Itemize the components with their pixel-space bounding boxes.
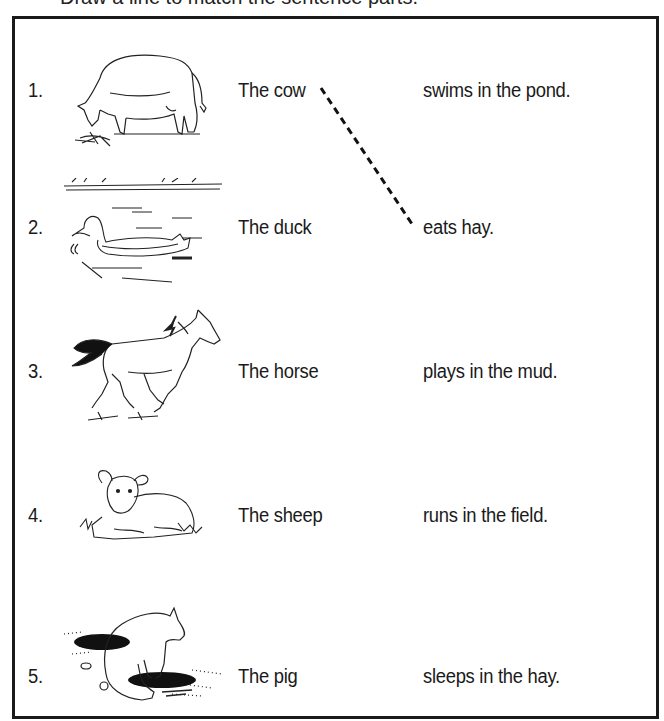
- cow-picture-icon: [70, 48, 215, 153]
- predicate-sleeps-in-the-hay[interactable]: sleeps in the hay.: [423, 666, 560, 686]
- duck-picture-icon: [62, 178, 224, 293]
- row-number: 4.: [28, 505, 43, 525]
- sheep-picture-icon: [74, 467, 214, 547]
- subject-duck[interactable]: The duck: [238, 217, 311, 237]
- row-number: 2.: [28, 217, 43, 237]
- horse-picture-icon: [68, 308, 223, 428]
- subject-horse[interactable]: The horse: [238, 361, 318, 381]
- predicate-eats-hay[interactable]: eats hay.: [423, 217, 494, 237]
- predicate-runs-in-the-field[interactable]: runs in the field.: [423, 505, 548, 525]
- heading-cut-off: Draw a line to match the sentence parts.: [60, 0, 418, 9]
- pig-picture-icon: [62, 604, 232, 709]
- predicate-swims-in-the-pond[interactable]: swims in the pond.: [423, 80, 570, 100]
- row-number: 5.: [28, 666, 43, 686]
- subject-sheep[interactable]: The sheep: [238, 505, 322, 525]
- subject-cow[interactable]: The cow: [238, 80, 306, 100]
- row-number: 3.: [28, 361, 43, 381]
- subject-pig[interactable]: The pig: [238, 666, 297, 686]
- row-number: 1.: [28, 80, 43, 100]
- predicate-plays-in-the-mud[interactable]: plays in the mud.: [423, 361, 557, 381]
